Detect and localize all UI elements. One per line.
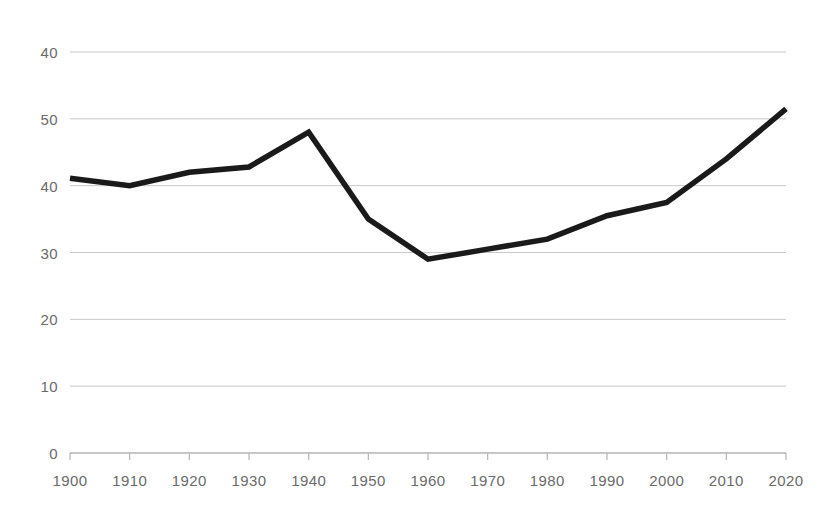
x-axis-tick-label: 2010 xyxy=(709,472,744,489)
x-axis-tick-label: 1990 xyxy=(590,472,625,489)
data-series-line xyxy=(70,109,786,259)
gridlines xyxy=(70,52,786,453)
x-axis-tick-label: 1930 xyxy=(232,472,267,489)
y-axis-tick-label: 50 xyxy=(14,110,58,127)
y-axis-tick-label: 30 xyxy=(14,244,58,261)
x-axis-tick-label: 1960 xyxy=(411,472,446,489)
y-axis-tick-label: 10 xyxy=(14,378,58,395)
x-axis-tick-label: 1970 xyxy=(470,472,505,489)
y-axis-tick-label: 40 xyxy=(14,44,58,61)
line-chart: 4050403020100 19001910192019301940195019… xyxy=(0,0,826,527)
x-axis-tick-label: 2020 xyxy=(769,472,804,489)
x-axis-tick-label: 1940 xyxy=(291,472,326,489)
x-axis-tick-label: 1920 xyxy=(172,472,207,489)
y-axis-tick-label: 0 xyxy=(14,445,58,462)
y-axis-tick-label: 40 xyxy=(14,177,58,194)
x-axis-tick-label: 1950 xyxy=(351,472,386,489)
x-axis-tick-label: 1980 xyxy=(530,472,565,489)
x-axis-tick-label: 2000 xyxy=(649,472,684,489)
x-axis-tick-label: 1900 xyxy=(53,472,88,489)
chart-plot-area xyxy=(0,0,826,527)
x-axis-tick-marks xyxy=(70,453,786,460)
x-axis-tick-label: 1910 xyxy=(112,472,147,489)
y-axis-tick-label: 20 xyxy=(14,311,58,328)
